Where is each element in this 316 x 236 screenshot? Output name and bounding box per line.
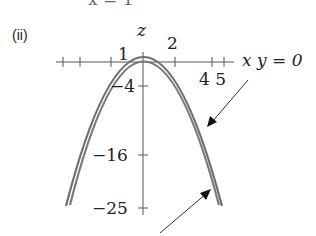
tick-label-1: 1 (118, 46, 129, 63)
tick-label-neg16: −16 (92, 147, 128, 164)
tick-label-neg4: −4 (110, 78, 135, 95)
parabola-inner (70, 62, 219, 206)
tick-label-2: 2 (167, 35, 178, 52)
arrow-lower (160, 189, 211, 233)
plot-area (0, 0, 316, 236)
x-axis-label: x y = 0 (242, 52, 302, 69)
tick-label-4-5: 4 5 (199, 71, 226, 88)
tick-label-neg25: −25 (92, 200, 128, 217)
z-axis-label: z (137, 22, 146, 39)
